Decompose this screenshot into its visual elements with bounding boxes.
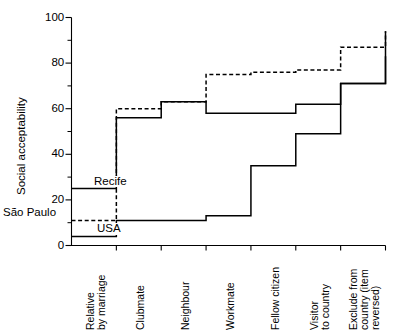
step-chart-plot	[0, 0, 394, 334]
y-axis-title: Social acceptability	[16, 97, 28, 195]
x-tick-label-2: Clubmate	[135, 285, 146, 330]
axis-frame	[72, 18, 386, 246]
series-path-recife	[72, 31, 386, 188]
series-path-s-o-paulo	[72, 31, 386, 220]
chart-figure: 0 20 40 60 80 100 Social acceptability R…	[0, 0, 394, 334]
x-tick-label-5: Fellow citizen	[270, 267, 281, 330]
y-tick-label-40: 40	[24, 148, 64, 160]
x-tick-label-4: Workmate	[225, 282, 236, 330]
series-path-usa	[72, 56, 386, 236]
series-label-recife: Recife	[93, 176, 128, 188]
x-tick-label-5-line-1: Fellow citizen	[270, 267, 281, 330]
x-tick-label-1: Relativeby marriage	[85, 275, 107, 330]
x-tick-label-7: Exclude fromcountry (itemreversed)	[348, 269, 382, 330]
y-tick-label-80: 80	[24, 57, 64, 69]
x-tick-label-6-line-2: to country	[320, 284, 331, 330]
x-tick-label-6: Visitorto country	[309, 284, 331, 330]
x-tick-label-1-line-2: by marriage	[96, 275, 107, 330]
x-tick-label-3: Neighbour	[180, 282, 191, 330]
x-tick-label-4-line-1: Workmate	[225, 282, 236, 330]
x-tick-label-2-line-1: Clubmate	[135, 285, 146, 330]
y-tick-label-100: 100	[24, 12, 64, 24]
series-label-sao-paulo: São Paulo	[2, 207, 57, 219]
x-tick-label-7-line-3: reversed)	[371, 269, 382, 330]
x-tick-label-3-line-1: Neighbour	[180, 282, 191, 330]
series-label-usa: USA	[96, 223, 122, 235]
series-lines	[72, 31, 386, 236]
y-tick-label-0: 0	[24, 240, 64, 252]
y-tick-label-60: 60	[24, 103, 64, 115]
y-tick-label-20: 20	[24, 194, 64, 206]
